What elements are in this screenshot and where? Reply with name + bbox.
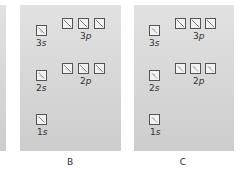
orbital-box-2s	[36, 70, 47, 81]
orbital-box-3p-3	[94, 18, 105, 29]
orbital-box-2p-2	[190, 63, 201, 74]
orbital-box-2p-3	[205, 63, 216, 74]
orbital-box-2p-1	[175, 63, 186, 74]
label-3p: 3p	[80, 31, 91, 41]
label-3s: 3s	[36, 38, 46, 48]
arrow-pair-icon	[37, 26, 46, 35]
arrow-icon	[191, 19, 200, 28]
orbital-box-1s	[149, 114, 160, 125]
arrow-icon	[63, 19, 72, 28]
panel-a-partial	[0, 5, 6, 151]
orbital-box-3p-1	[62, 18, 73, 29]
arrow-pair-icon	[206, 64, 215, 73]
label-3p: 3p	[193, 31, 204, 41]
arrow-pair-icon	[191, 64, 200, 73]
orbital-box-1s	[36, 114, 47, 125]
orbital-box-2p-2	[78, 63, 89, 74]
label-3s: 3s	[149, 38, 159, 48]
orbital-box-2p-3	[94, 63, 105, 74]
arrow-pair-icon	[150, 115, 159, 124]
label-1s: 1s	[37, 127, 47, 137]
label-2s: 2s	[36, 83, 46, 93]
arrow-icon	[95, 19, 104, 28]
orbital-box-3p-1	[175, 18, 186, 29]
arrow-pair-icon	[95, 64, 104, 73]
arrow-icon	[37, 115, 46, 124]
arrow-pair-icon	[79, 64, 88, 73]
arrow-pair-icon	[150, 71, 159, 80]
label-2s: 2s	[149, 83, 159, 93]
arrow-icon	[79, 19, 88, 28]
arrow-icon	[206, 19, 215, 28]
orbital-box-2p-1	[62, 63, 73, 74]
orbital-box-3p-3	[205, 18, 216, 29]
orbital-box-2s	[149, 70, 160, 81]
orbital-box-3p-2	[78, 18, 89, 29]
arrow-icon	[176, 19, 185, 28]
label-1s: 1s	[150, 127, 160, 137]
arrow-pair-icon	[150, 26, 159, 35]
caption-c: C	[173, 157, 193, 167]
caption-b: B	[60, 157, 80, 167]
arrow-pair-icon	[176, 64, 185, 73]
arrow-pair-icon	[37, 71, 46, 80]
orbital-box-3s	[149, 25, 160, 36]
arrow-pair-icon	[63, 64, 72, 73]
orbital-box-3p-2	[190, 18, 201, 29]
label-2p: 2p	[80, 76, 91, 86]
label-2p: 2p	[193, 76, 204, 86]
orbital-box-3s	[36, 25, 47, 36]
